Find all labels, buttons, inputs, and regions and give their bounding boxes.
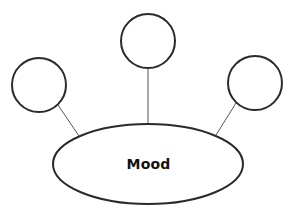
node-label-right [228, 56, 282, 110]
node-label-top [121, 14, 175, 68]
central-node-label: Mood [53, 124, 244, 204]
node-label-left [12, 58, 66, 112]
